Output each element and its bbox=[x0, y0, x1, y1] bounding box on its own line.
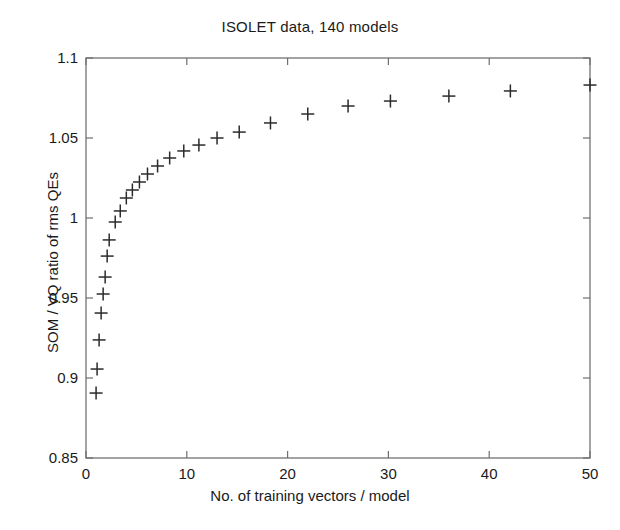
x-tick-label: 0 bbox=[56, 466, 116, 481]
data-markers bbox=[90, 79, 597, 400]
y-tick-label: 0.95 bbox=[18, 290, 78, 305]
y-tick-label: 0.85 bbox=[18, 450, 78, 465]
x-tick-label: 10 bbox=[157, 466, 217, 481]
x-tick-label: 50 bbox=[560, 466, 620, 481]
x-tick-label: 30 bbox=[358, 466, 418, 481]
plot-area bbox=[0, 0, 620, 530]
y-tick-label: 1.05 bbox=[18, 130, 78, 145]
x-tick-label: 20 bbox=[258, 466, 318, 481]
axes-frame bbox=[86, 58, 590, 458]
axis-ticks bbox=[86, 58, 590, 458]
y-tick-label: 1 bbox=[18, 210, 78, 225]
y-tick-label: 0.9 bbox=[18, 370, 78, 385]
x-tick-label: 40 bbox=[459, 466, 519, 481]
y-tick-label: 1.1 bbox=[18, 50, 78, 65]
chart-figure: ISOLET data, 140 models SOM / VQ ratio o… bbox=[0, 0, 620, 530]
